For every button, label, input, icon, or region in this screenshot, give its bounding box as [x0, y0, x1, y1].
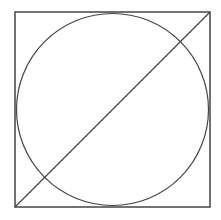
geometry-diagram: [0, 0, 221, 220]
